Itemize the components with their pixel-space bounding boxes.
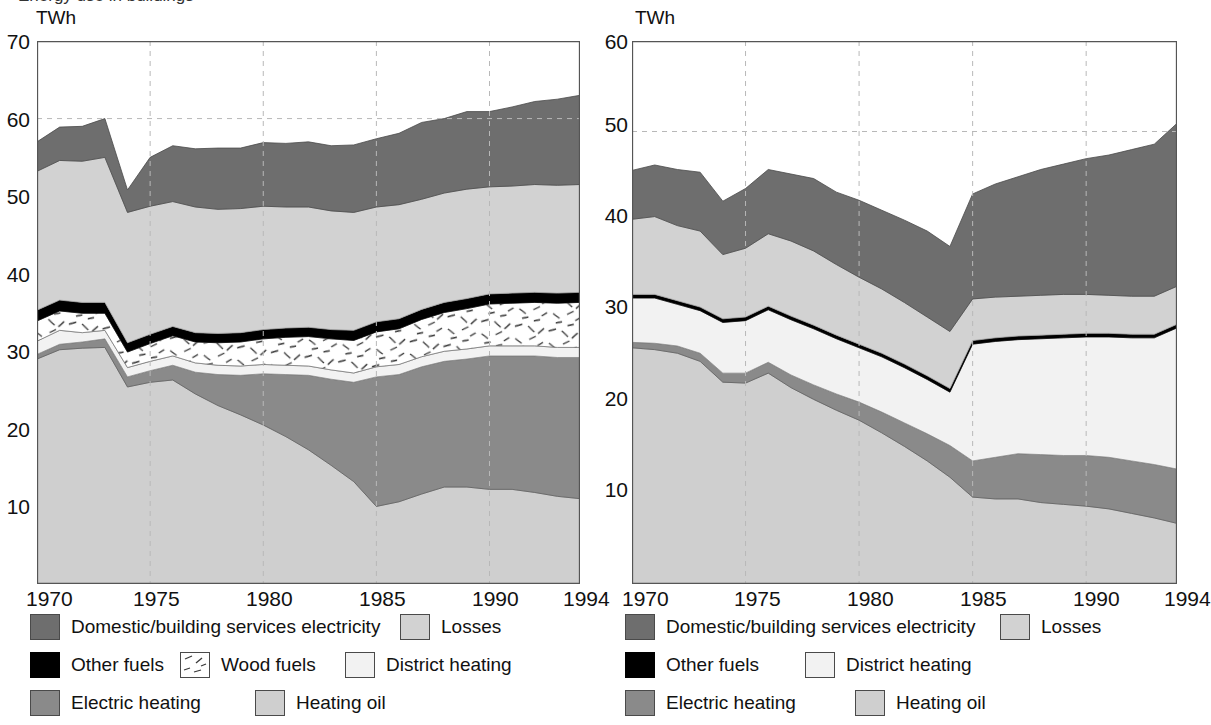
y-tick-left-50: 50 [0,186,30,207]
legend-label: Domestic/building services electricity [71,614,380,640]
legend-label: Wood fuels [221,652,316,678]
y-tick-right-60: 60 [600,31,628,52]
x-tick-left-1980: 1980 [246,588,293,609]
y-tick-right-40: 40 [600,205,628,226]
x-tick-left-1975: 1975 [133,588,180,609]
legend-swatch-losses [1000,614,1030,640]
legend-item[interactable]: Losses [400,614,501,640]
legend-label: Other fuels [666,652,759,678]
legend-swatch-domestic-electricity [625,614,655,640]
x-tick-right-1985: 1985 [960,588,1007,609]
legend-swatch-domestic-electricity [30,614,60,640]
legend-label: Other fuels [71,652,164,678]
legend-left: Domestic/building services electricityLo… [30,614,600,719]
legend-item[interactable]: Wood fuels [180,652,316,678]
legend-item[interactable]: Heating oil [255,690,386,716]
x-tick-right-1970: 1970 [622,588,669,609]
x-tick-right-1990: 1990 [1073,588,1120,609]
legend-swatch-district-heating [345,652,375,678]
plot-area-right [632,41,1177,584]
legend-item[interactable]: Electric heating [30,690,201,716]
legend-item[interactable]: Electric heating [625,690,796,716]
legend-label: District heating [846,652,972,678]
y-tick-left-30: 30 [0,341,30,362]
y-tick-left-10: 10 [0,496,30,517]
x-tick-left-1970: 1970 [26,588,73,609]
legend-label: Heating oil [896,690,986,716]
y-tick-left-60: 60 [0,109,30,130]
legend-swatch-electric-heating [625,690,655,716]
legend-swatch-other-fuels [30,652,60,678]
y-tick-right-30: 30 [600,296,628,317]
legend-swatch-other-fuels [625,652,655,678]
y-tick-left-40: 40 [0,264,30,285]
legend-label: Electric heating [71,690,201,716]
x-tick-left-1985: 1985 [359,588,406,609]
legend-swatch-losses [400,614,430,640]
legend-item[interactable]: Other fuels [30,652,164,678]
legend-label: Electric heating [666,690,796,716]
legend-label: Heating oil [296,690,386,716]
y-tick-right-10: 10 [600,479,628,500]
legend-label: Domestic/building services electricity [666,614,975,640]
y-tick-right-50: 50 [600,114,628,135]
chart-panel-left: TWh 70 60 50 40 30 20 10 1970 1975 1980 … [0,0,605,725]
legend-item[interactable]: District heating [805,652,972,678]
legend-swatch-district-heating [805,652,835,678]
legend-swatch-heating-oil [255,690,285,716]
legend-item[interactable]: Domestic/building services electricity [625,614,975,640]
x-tick-left-1990: 1990 [472,588,519,609]
y-tick-left-70: 70 [0,31,30,52]
legend-item[interactable]: District heating [345,652,512,678]
legend-item[interactable]: Other fuels [625,652,759,678]
legend-swatch-wood-fuels [180,652,210,678]
x-tick-right-1994: 1994 [1164,588,1211,609]
legend-label: District heating [386,652,512,678]
legend-item[interactable]: Heating oil [855,690,986,716]
y-tick-right-20: 20 [600,388,628,409]
y-axis-unit-label-right: TWh [635,8,675,27]
plot-area-left [37,41,580,584]
x-tick-right-1975: 1975 [734,588,781,609]
y-tick-left-20: 20 [0,419,30,440]
legend-label: Losses [1041,614,1101,640]
legend-swatch-heating-oil [855,690,885,716]
legend-label: Losses [441,614,501,640]
y-axis-unit-label-left: TWh [36,8,76,27]
legend-item[interactable]: Losses [1000,614,1101,640]
chart-panel-right: TWh 60 50 40 30 20 10 1970 1975 1980 198… [600,0,1210,725]
legend-right: Domestic/building services electricityLo… [625,614,1200,719]
legend-swatch-electric-heating [30,690,60,716]
legend-item[interactable]: Domestic/building services electricity [30,614,380,640]
x-tick-right-1980: 1980 [847,588,894,609]
